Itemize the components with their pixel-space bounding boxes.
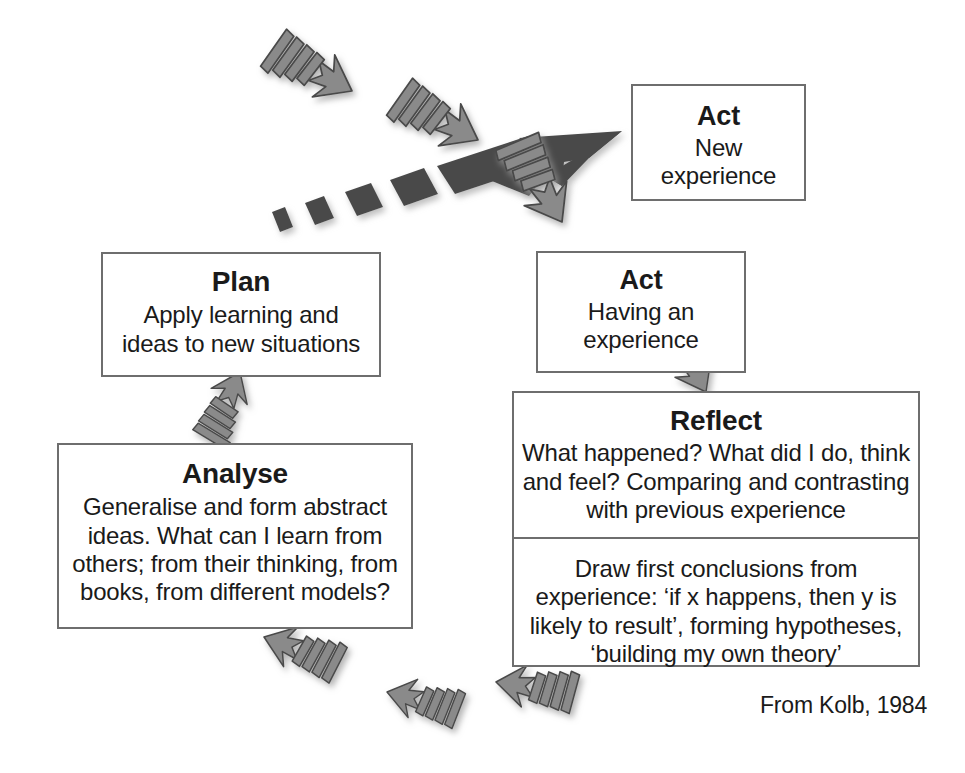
connector-top-arrow-1 [259,27,363,112]
node-reflect[interactable]: Reflect What happened? What did I do, th… [512,391,920,538]
node-body: Newexperience [633,134,804,191]
connector-conclusions-to-analyse-1 [493,661,580,714]
node-body: Generalise and form abstractideas. What … [59,493,411,606]
node-title: Analyse [59,458,411,490]
connector-conclusions-to-analyse-2 [382,673,466,730]
diagram-canvas: Act Newexperience Act Having anexperienc… [0,0,965,773]
connector-plan-to-act-new [272,131,622,232]
node-title: Act [633,101,804,132]
node-body: Draw first conclusions fromexperience: ‘… [514,555,918,668]
node-plan[interactable]: Plan Apply learning andideas to new situ… [101,252,381,377]
node-act-having-an-experience[interactable]: Act Having anexperience [536,251,746,373]
node-title: Act [538,265,744,296]
connector-top-arrow-2 [385,76,489,161]
attribution-label: From Kolb, 1984 [760,692,927,719]
connector-cross-arrow [493,127,583,234]
node-body: Apply learning andideas to new situation… [103,301,379,358]
node-act-new-experience[interactable]: Act Newexperience [631,84,806,201]
node-body: What happened? What did I do, thinkand f… [514,439,918,524]
node-title: Reflect [514,405,918,437]
node-body: Having anexperience [538,298,744,355]
node-title: Plan [103,266,379,298]
node-analyse[interactable]: Analyse Generalise and form abstractidea… [57,443,413,629]
node-draw-first-conclusions[interactable]: Draw first conclusions fromexperience: ‘… [512,538,920,667]
